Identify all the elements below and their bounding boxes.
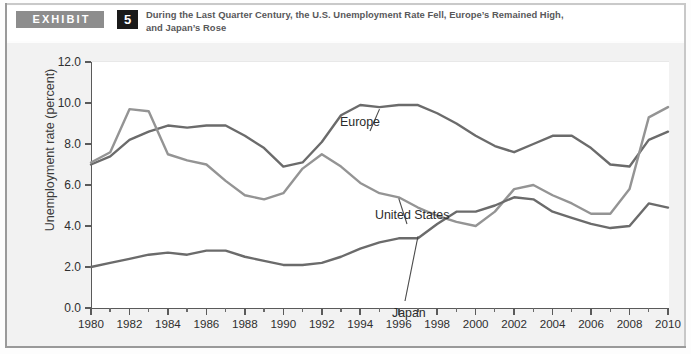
frame-bottom-border (5, 346, 686, 348)
exhibit-header: EXHIBIT 5 During the Last Quarter Centur… (7, 6, 684, 41)
exhibit-number-badge: 5 (117, 10, 138, 29)
frame-top-border (5, 3, 686, 5)
exhibit-title-line-2: and Japan’s Rose (146, 22, 666, 35)
exhibit-tag: EXHIBIT (16, 11, 104, 28)
exhibit-title: During the Last Quarter Century, the U.S… (146, 9, 666, 34)
leader-line-japan (405, 236, 418, 301)
exhibit-figure: EXHIBIT 5 During the Last Quarter Centur… (0, 0, 691, 354)
series-lines (7, 43, 684, 346)
series-label-europe: Europe (340, 115, 380, 129)
series-label-japan: Japan (392, 306, 426, 320)
frame-right-border (684, 3, 686, 348)
chart-container: Unemployment rate (percent) 0.02.04.06.0… (7, 43, 684, 346)
exhibit-title-line-1: During the Last Quarter Century, the U.S… (146, 9, 666, 22)
series-label-united-states: United States (375, 208, 449, 222)
chart-inner: Unemployment rate (percent) 0.02.04.06.0… (7, 43, 684, 346)
